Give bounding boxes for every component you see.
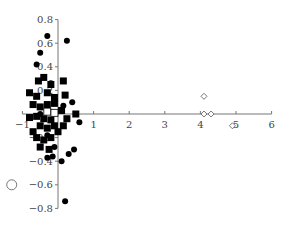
data-point (51, 100, 58, 107)
data-point (44, 101, 51, 108)
x-tick-label: 2 (126, 119, 132, 130)
y-tick-label: 0.4 (37, 61, 53, 72)
y-tick-label: 0.8 (37, 14, 53, 25)
x-tick-label: 3 (162, 119, 168, 130)
data-point (40, 74, 47, 81)
data-point (37, 50, 43, 56)
data-point (66, 151, 72, 157)
x-tick-label: 1 (90, 119, 96, 130)
y-tick-label: 0.6 (37, 38, 53, 49)
data-point (30, 101, 37, 108)
data-point (62, 92, 69, 99)
y-tick-label: −0.8 (29, 203, 53, 214)
data-point (40, 136, 47, 143)
data-point (46, 146, 53, 153)
data-point (37, 122, 44, 129)
data-point (51, 109, 58, 116)
data-point (201, 111, 207, 117)
data-point (34, 61, 40, 67)
data-point (76, 119, 82, 125)
data-point (47, 134, 54, 141)
data-point (64, 38, 70, 44)
data-point (201, 93, 207, 99)
data-point (33, 93, 40, 100)
data-point (55, 128, 62, 135)
data-point (44, 155, 50, 161)
scatter-chart: −11234560.80.60.40.2−0.2−0.4−0.6−0.8 (0, 0, 288, 227)
data-point (26, 114, 33, 121)
x-tick-label: 4 (197, 119, 203, 130)
data-point (47, 81, 54, 88)
y-tick-label: −0.6 (29, 179, 53, 190)
data-point (7, 180, 17, 190)
data-point (69, 99, 75, 105)
data-point (44, 125, 51, 132)
data-point (58, 107, 65, 114)
data-point (72, 111, 79, 118)
data-point (60, 77, 67, 84)
data-point (44, 89, 51, 96)
data-point (26, 89, 33, 96)
data-point (208, 111, 214, 117)
data-point (62, 198, 68, 204)
data-point (40, 115, 47, 122)
data-point (59, 158, 65, 164)
data-point (50, 153, 56, 159)
data-point (71, 146, 77, 152)
data-point (37, 144, 44, 151)
data-point (63, 115, 70, 122)
data-point (44, 108, 51, 115)
data-point (30, 128, 37, 135)
data-point (44, 33, 50, 39)
data-point (33, 113, 40, 120)
x-tick-label: 6 (268, 119, 274, 130)
data-point (37, 103, 44, 110)
